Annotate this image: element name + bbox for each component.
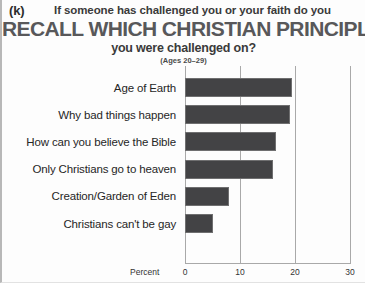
plot-area: 0102030Age of EarthWhy bad things happen… [185, 66, 350, 264]
category-label: Christians can't be gay [63, 218, 176, 230]
bar-row: How can you believe the Bible [185, 132, 276, 151]
gridline-20 [295, 66, 296, 264]
bar [185, 132, 276, 151]
bar [185, 187, 229, 206]
bar [185, 214, 213, 233]
x-tick-label: 30 [345, 267, 354, 277]
page-title: RECALL WHICH CHRISTIAN PRINCIPLE [2, 18, 365, 39]
chart-title-tail: you were challenged on? [2, 41, 365, 55]
category-label: Creation/Garden of Eden [52, 190, 176, 202]
chart-subtitle: (Ages 20–29) [2, 56, 365, 65]
bar-row: Age of Earth [185, 78, 292, 97]
category-label: How can you believe the Bible [26, 136, 176, 148]
chart-title-kicker: If someone has challenged you or your fa… [2, 4, 365, 16]
chart-figure: (k) If someone has challenged you or you… [0, 0, 365, 283]
bar-row: Christians can't be gay [185, 214, 213, 233]
x-axis-line [185, 263, 350, 264]
bar-row: Why bad things happen [185, 105, 290, 124]
bar [185, 160, 273, 179]
x-axis-title: Percent [130, 267, 159, 277]
gridline-30 [350, 66, 351, 264]
x-tick-label: 20 [290, 267, 299, 277]
category-label: Why bad things happen [58, 109, 176, 121]
bar-row: Only Christians go to heaven [185, 160, 273, 179]
x-tick-label: 10 [235, 267, 244, 277]
bar [185, 105, 290, 124]
bar-row: Creation/Garden of Eden [185, 187, 229, 206]
category-label: Only Christians go to heaven [33, 163, 176, 175]
x-tick-label: 0 [183, 267, 188, 277]
category-label: Age of Earth [114, 82, 176, 94]
bar [185, 78, 292, 97]
